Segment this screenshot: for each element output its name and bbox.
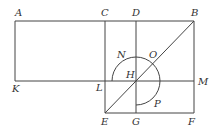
- label-G: G: [132, 116, 140, 127]
- label-M: M: [197, 76, 209, 87]
- label-N: N: [116, 49, 127, 60]
- label-L: L: [95, 82, 103, 93]
- label-A: A: [14, 7, 22, 18]
- label-O: O: [149, 49, 157, 60]
- label-H: H: [125, 69, 135, 80]
- label-C: C: [101, 7, 109, 18]
- label-F: F: [187, 116, 196, 127]
- geometry-diagram: A C D B K L H M E G F N O P: [0, 0, 215, 132]
- label-D: D: [131, 7, 140, 18]
- diagonal-EB: [105, 21, 194, 113]
- label-P: P: [153, 98, 161, 109]
- label-E: E: [100, 116, 109, 127]
- label-B: B: [190, 7, 198, 18]
- label-K: K: [11, 83, 20, 94]
